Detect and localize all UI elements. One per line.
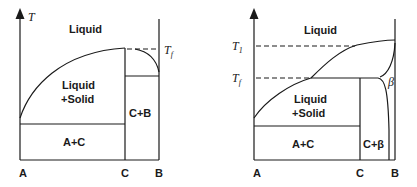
left-region-a-c: A+C — [63, 136, 85, 148]
right-region-liquid-solid-2: +Solid — [292, 107, 325, 119]
left-tf-label: Tf — [164, 43, 175, 59]
left-region-liquid-solid-1: Liquid — [62, 79, 95, 91]
right-x-label-c: C — [356, 167, 364, 179]
right-tf-label: Tf — [232, 71, 243, 87]
right-beta-solidus-curve — [380, 43, 395, 77]
left-region-liquid: Liquid — [69, 23, 102, 35]
left-x-label-b: B — [155, 167, 163, 179]
left-x-label-a: A — [19, 167, 27, 179]
right-x-label-a: A — [253, 167, 261, 179]
left-axis-arrow-icon — [16, 8, 25, 19]
phase-diagrams: T Tf Liquid Liquid +Solid A+C C+B A C B — [0, 0, 417, 187]
left-x-label-c: C — [121, 167, 129, 179]
left-liquidus-curve-b — [135, 49, 159, 72]
left-region-c-b: C+B — [129, 107, 151, 119]
right-axis-arrow-icon — [250, 8, 259, 19]
left-phase-diagram: T Tf Liquid Liquid +Solid A+C C+B A C B — [16, 8, 175, 179]
left-axis-label: T — [28, 10, 36, 24]
right-x-label-b: B — [391, 167, 399, 179]
right-region-liquid-solid-1: Liquid — [294, 93, 327, 105]
right-region-c-beta: C+β — [363, 138, 384, 150]
right-region-liquid: Liquid — [304, 24, 337, 36]
right-region-a-c: A+C — [292, 138, 314, 150]
left-region-liquid-solid-2: +Solid — [61, 93, 94, 105]
right-region-beta: β — [387, 75, 394, 89]
right-t1-label: T1 — [232, 39, 243, 55]
right-phase-diagram: T1 Tf Liquid Liquid +Solid A+C C+β β A C… — [232, 8, 399, 179]
